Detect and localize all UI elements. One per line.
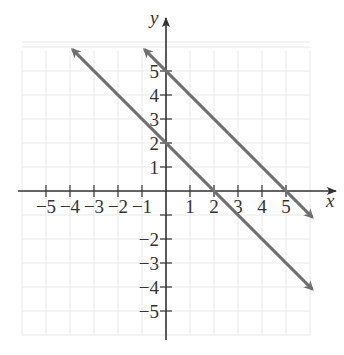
x-axis-label: x	[325, 190, 335, 211]
x-tick-label: 2	[209, 196, 219, 217]
x-tick-label: 1	[185, 196, 195, 217]
y-axis-label: y	[148, 7, 159, 28]
x-tick-label: −1	[132, 196, 152, 217]
x-tick-label: −4	[60, 196, 81, 217]
x-tick-label: 4	[257, 196, 267, 217]
x-tick-label: 5	[281, 196, 291, 217]
data-lines	[72, 49, 312, 289]
y-tick-label: −2	[139, 229, 159, 250]
axes	[18, 18, 336, 340]
y-tick-label: 4	[150, 85, 160, 106]
x-tick-label: −5	[36, 196, 56, 217]
y-tick-label: −3	[139, 253, 159, 274]
series-line	[144, 49, 312, 217]
y-tick-label: 1	[150, 157, 160, 178]
series-line	[72, 49, 312, 289]
y-tick-label: −5	[139, 301, 159, 322]
x-tick-label: −3	[84, 196, 104, 217]
x-tick-label: −2	[108, 196, 128, 217]
coordinate-plane: −5−4−3−2−112345−5−4−3−212345 x y	[0, 0, 344, 355]
y-tick-label: −4	[139, 277, 160, 298]
